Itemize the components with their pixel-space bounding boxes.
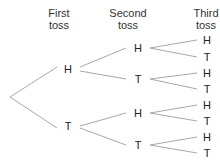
branch-line bbox=[80, 128, 126, 145]
branch-line bbox=[150, 40, 197, 48]
node-label: T bbox=[131, 73, 145, 85]
node-label: T bbox=[200, 147, 214, 159]
node-label: H bbox=[200, 99, 214, 111]
branch-line bbox=[150, 145, 197, 153]
header-line-1: First bbox=[29, 7, 89, 19]
node-label: T bbox=[61, 120, 75, 132]
column-header: Thirdtoss bbox=[176, 7, 220, 31]
node-label: T bbox=[200, 83, 214, 95]
node-label: H bbox=[200, 67, 214, 79]
branch-line bbox=[10, 67, 57, 97]
node-label: T bbox=[200, 115, 214, 127]
header-line-2: toss bbox=[29, 19, 89, 31]
branch-line bbox=[150, 48, 197, 57]
branch-line bbox=[10, 97, 57, 128]
header-line-1: Third bbox=[176, 7, 220, 19]
node-label: T bbox=[200, 51, 214, 63]
column-header: Secondtoss bbox=[98, 7, 158, 31]
branch-line bbox=[80, 113, 126, 126]
header-line-2: toss bbox=[176, 19, 220, 31]
node-label: H bbox=[200, 131, 214, 143]
branch-line bbox=[150, 113, 197, 121]
column-header: Firsttoss bbox=[29, 7, 89, 31]
header-line-1: Second bbox=[98, 7, 158, 19]
branch-line bbox=[150, 105, 197, 113]
node-label: H bbox=[61, 63, 75, 75]
branch-line bbox=[80, 71, 126, 79]
branch-line bbox=[150, 73, 197, 79]
branch-line bbox=[80, 48, 126, 67]
branch-line bbox=[150, 79, 197, 89]
branch-line bbox=[150, 137, 197, 145]
header-line-2: toss bbox=[98, 19, 158, 31]
node-label: H bbox=[131, 107, 145, 119]
node-label: H bbox=[131, 42, 145, 54]
node-label: T bbox=[131, 139, 145, 151]
node-label: H bbox=[200, 34, 214, 46]
